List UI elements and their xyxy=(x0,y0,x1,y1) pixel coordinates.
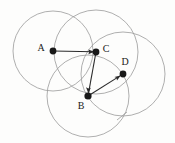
geometry-diagram: A C B D xyxy=(0,0,175,143)
vertex-a xyxy=(50,48,57,55)
label-point-b: B xyxy=(78,100,85,111)
vertex-d xyxy=(120,71,127,78)
label-point-a: A xyxy=(37,42,45,53)
arrowhead-at-d xyxy=(114,76,120,81)
diagram-canvas: A C B D xyxy=(0,0,175,143)
circle-group xyxy=(13,10,165,137)
vertex-b xyxy=(84,92,91,99)
label-point-d: D xyxy=(121,56,128,67)
vertex-c xyxy=(93,49,100,56)
label-point-c: C xyxy=(103,43,110,54)
